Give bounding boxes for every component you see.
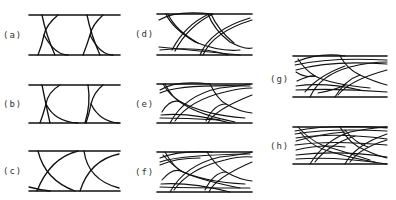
panel-label-c: (c) [3,166,22,176]
eye-panel-c [29,151,120,191]
eye-panel-g [293,55,387,97]
panel-label-b: (b) [3,99,22,109]
eye-panel-a [29,15,120,55]
panel-label-d: (d) [135,29,154,39]
eye-panel-h [293,127,387,164]
eye-diagram-figure [0,0,396,200]
panel-label-h: (h) [270,141,289,151]
eye-panel-d [157,13,252,55]
panel-label-a: (a) [3,30,22,40]
eye-panel-e [157,83,252,123]
panel-label-e: (e) [135,99,154,109]
eye-panel-b [29,85,120,123]
eye-panel-f [157,152,252,192]
panel-label-g: (g) [270,74,289,84]
panel-label-f: (f) [135,167,154,177]
